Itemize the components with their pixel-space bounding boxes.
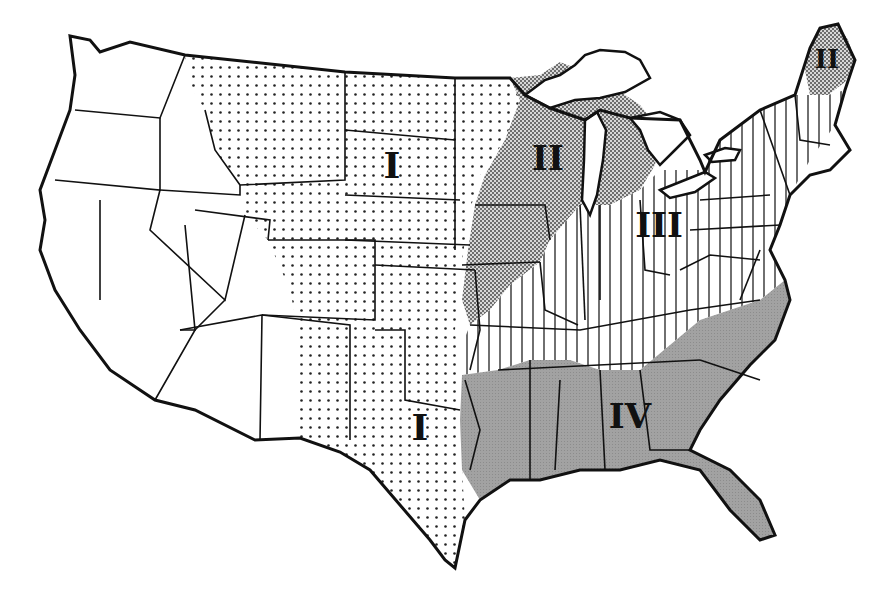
map-svg: I II III IV I II xyxy=(0,0,894,610)
region-label-I-south: I xyxy=(412,406,429,448)
region-label-I-north: I xyxy=(384,144,401,186)
region-label-II-maine: II xyxy=(815,44,839,74)
region-label-IV: IV xyxy=(609,396,652,436)
region-label-II: II xyxy=(532,138,564,178)
us-regions-map: I II III IV I II xyxy=(0,0,894,610)
region-label-III: III xyxy=(635,205,683,245)
